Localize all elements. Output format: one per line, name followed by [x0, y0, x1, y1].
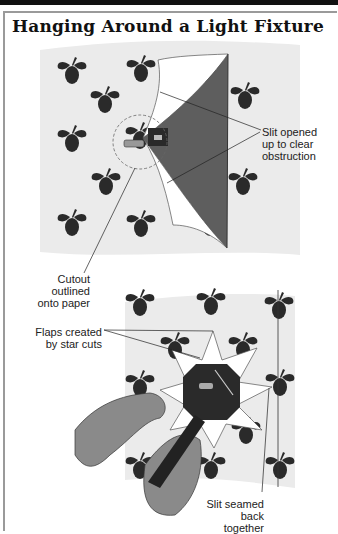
callout-flaps-created: Flaps created by star cuts — [34, 326, 102, 350]
wallpaper-panel-bottom — [75, 288, 295, 515]
wallpaper-panel-top — [40, 41, 300, 273]
callout-slit-seamed: Slit seamed back together — [200, 498, 264, 534]
callout-cutout-outlined: Cutout outlined onto paper — [17, 273, 90, 309]
callout-slit-opened: Slit opened up to clear obstruction — [262, 126, 317, 162]
